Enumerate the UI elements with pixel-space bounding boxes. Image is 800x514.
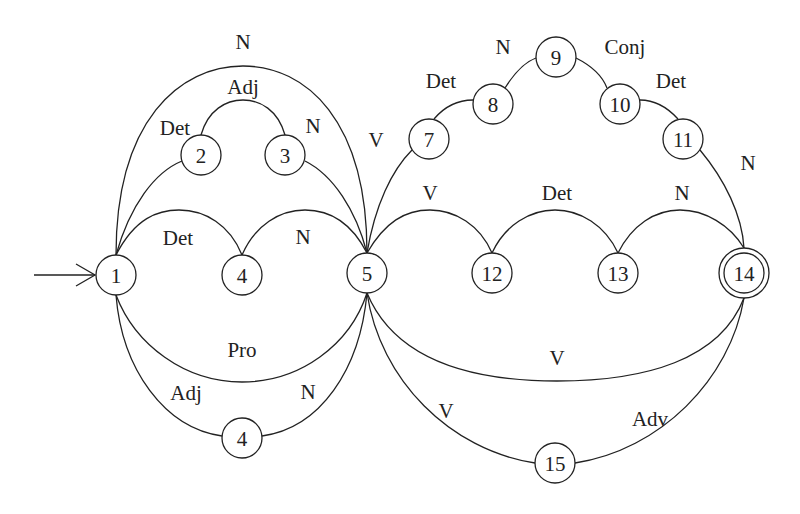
edge-label: N: [495, 35, 510, 59]
edge-label: N: [300, 380, 315, 404]
state-node: 9: [536, 37, 576, 77]
state-label: 12: [482, 262, 503, 286]
state-label: 13: [608, 262, 629, 286]
state-label: 7: [424, 128, 435, 152]
state-node: 7: [409, 119, 449, 159]
state-label: 4: [237, 427, 248, 451]
state-label: 8: [488, 93, 499, 117]
state-label: 1: [111, 264, 122, 288]
state-node: 10: [600, 84, 640, 124]
state-label: 3: [280, 144, 291, 168]
edge-9-10-conj: [576, 58, 607, 88]
edge-label: N: [295, 225, 310, 249]
edge-label: Adj: [227, 75, 259, 99]
edge-label: V: [422, 181, 437, 205]
state-label: 4: [237, 264, 248, 288]
edge-label: V: [438, 399, 453, 423]
edge-11-14-n: [700, 150, 744, 248]
edge-label: Det: [656, 69, 686, 93]
state-node: 3: [265, 135, 305, 175]
state-node: 13: [598, 253, 638, 293]
edge-5-7-v: [367, 150, 412, 253]
state-node: 1: [96, 255, 136, 295]
edge-label: Adv: [632, 407, 669, 431]
state-node: 5: [347, 253, 387, 293]
edge-label: V: [368, 128, 383, 152]
edge-15-14-adv: [575, 298, 744, 463]
edge-label: Adj: [170, 381, 202, 405]
edge-8-9-n: [505, 58, 536, 88]
edge-13-14-n: [618, 210, 744, 253]
edge-label: V: [549, 346, 564, 370]
state-node: 2: [181, 135, 221, 175]
edge-5-12-v: [367, 210, 492, 253]
edge-7-8-det: [434, 100, 473, 119]
edge-label: Det: [163, 226, 193, 250]
edge-label: Det: [426, 69, 456, 93]
edge-label: Det: [542, 181, 572, 205]
state-label: 14: [734, 262, 756, 286]
edge-4b-5-n: [262, 293, 367, 436]
state-node: 8: [473, 84, 513, 124]
edge-label: N: [674, 181, 689, 205]
fsa-diagram: 1 2 3 4 5 4 7 8 9 10 11 12: [0, 0, 800, 514]
edge-2-3-adj: [201, 100, 285, 135]
edge-label: Pro: [227, 338, 256, 362]
edge-label: N: [305, 114, 320, 138]
state-node: 4: [222, 418, 262, 458]
state-node: 4: [222, 255, 262, 295]
state-node: 12: [472, 253, 512, 293]
state-node: 11: [663, 119, 703, 159]
state-label: 11: [673, 128, 693, 152]
edge-label: Conj: [605, 35, 646, 59]
state-label: 15: [545, 452, 566, 476]
state-label: 5: [362, 262, 373, 286]
state-label: 9: [551, 46, 562, 70]
edge-3-5-n: [305, 161, 367, 253]
state-label: 10: [610, 93, 631, 117]
edge-10-11-det: [640, 100, 678, 119]
state-node: 15: [535, 443, 575, 483]
edge-label: Det: [160, 116, 190, 140]
edge-label: N: [235, 30, 250, 54]
edge-1-4b-adj: [116, 295, 222, 436]
edge-12-13-det: [492, 210, 618, 253]
state-label: 2: [196, 144, 207, 168]
start-arrow-icon: [34, 264, 95, 286]
edge-label: N: [740, 151, 755, 175]
final-state-node: 14: [719, 248, 769, 298]
